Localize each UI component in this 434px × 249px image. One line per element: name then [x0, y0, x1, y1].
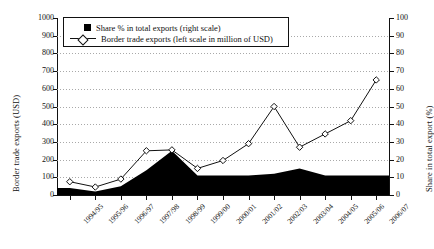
- filled-square-icon: [84, 24, 91, 31]
- legend-label-border: Border trade exports (left scale in mill…: [101, 34, 273, 44]
- data-point-marker: [373, 77, 379, 83]
- legend-item-share: Share % in total exports (right scale): [70, 22, 221, 33]
- data-point-marker: [322, 131, 328, 137]
- data-point-marker: [220, 157, 226, 163]
- data-point-marker: [296, 144, 302, 150]
- data-point-marker: [245, 140, 251, 146]
- border-line-markers: [67, 77, 380, 190]
- data-point-marker: [347, 117, 353, 123]
- border-line-series: [70, 80, 376, 187]
- data-point-marker: [271, 103, 277, 109]
- data-point-marker: [92, 184, 98, 190]
- line-diamond-icon: [70, 35, 96, 43]
- legend: Share % in total exports (right scale) B…: [63, 17, 289, 47]
- legend-label-share: Share % in total exports (right scale): [96, 23, 221, 33]
- data-point-marker: [67, 179, 73, 185]
- legend-item-border: Border trade exports (left scale in mill…: [70, 33, 273, 44]
